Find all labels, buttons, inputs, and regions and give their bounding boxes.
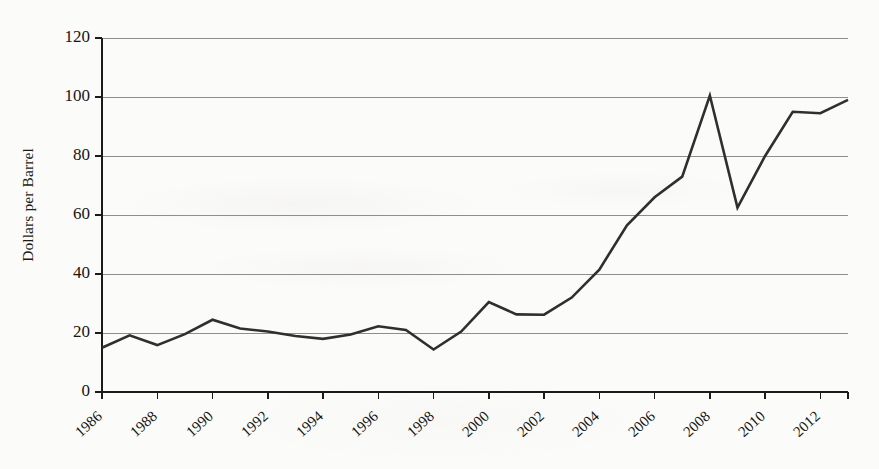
oil-price-chart-figure: Dollars per Barrel 020406080100120 19861… xyxy=(0,0,879,469)
plot-area xyxy=(0,0,879,469)
gridlines-group xyxy=(102,38,848,333)
y-tick-label: 100 xyxy=(44,86,90,106)
y-tick-label: 60 xyxy=(44,204,90,224)
y-tick-label: 20 xyxy=(44,322,90,342)
y-tick-label: 80 xyxy=(44,145,90,165)
tick-marks-group xyxy=(95,38,848,399)
y-tick-label: 120 xyxy=(44,27,90,47)
data-line-group xyxy=(102,96,848,350)
y-tick-label: 0 xyxy=(44,381,90,401)
y-tick-label: 40 xyxy=(44,263,90,283)
